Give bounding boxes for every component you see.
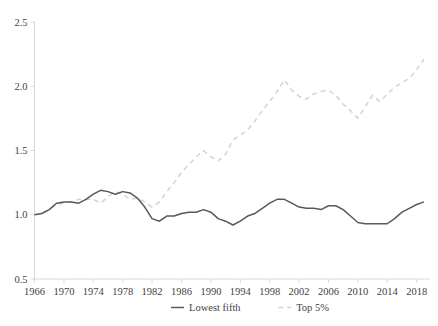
x-tick-label: 1974 [83,286,105,297]
chart-container: 0.51.01.52.02.5 196619701974197819821986… [0,0,438,326]
x-tick-label: 1994 [230,286,252,297]
chart-legend: Lowest fifthTop 5% [171,302,329,313]
line-chart: 0.51.01.52.02.5 196619701974197819821986… [0,0,438,326]
x-tick-label: 2014 [377,286,399,297]
y-tick-label: 0.5 [14,274,27,285]
series-line-lowest-fifth [35,190,425,225]
x-tick-label: 1982 [142,286,163,297]
series-line-top-5 [35,59,425,214]
x-tick-label: 2002 [289,286,310,297]
x-tick-label: 1986 [171,286,192,297]
y-axis: 0.51.01.52.02.5 [14,17,34,285]
x-tick-label: 1966 [24,286,45,297]
y-tick-label: 2.5 [14,17,27,28]
x-tick-label: 2010 [347,286,368,297]
legend-label-top-5: Top 5% [296,302,329,313]
x-tick-label: 2006 [318,286,339,297]
x-tick-label: 1998 [259,286,280,297]
y-tick-label: 1.0 [14,209,27,220]
x-tick-label: 1970 [53,286,74,297]
y-tick-label: 1.5 [14,145,27,156]
x-tick-label: 1990 [200,286,221,297]
x-tick-label: 2018 [406,286,427,297]
chart-series-group [35,59,425,225]
legend-label-lowest-fifth: Lowest fifth [189,302,241,313]
y-tick-label: 2.0 [14,81,27,92]
x-tick-label: 1978 [112,286,133,297]
x-axis: 1966197019741978198219861990199419982002… [24,279,430,297]
